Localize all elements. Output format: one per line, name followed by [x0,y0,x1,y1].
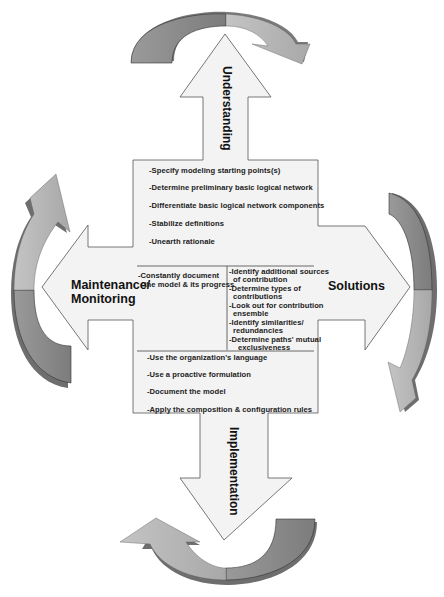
arrow-label-maintenance: Maintenance/ Monitoring [71,278,150,306]
understanding-item-1: -Specify modeling starting points(s) [149,166,280,175]
solutions-item-2: of contribution [233,275,287,284]
maintenance-item-1: -Constantly document [138,271,219,280]
understanding-item-5: -Unearth rationale [149,237,215,246]
arrow-label-maintenance-line2: Monitoring [71,292,150,306]
arrow-label-maintenance-line1: Maintenance/ [71,278,150,292]
maintenance-item-2: the model & its progress [144,280,234,289]
arrow-label-implementation: Implementation [227,427,241,516]
implementation-item-1: -Use the organization's language [147,353,267,362]
implementation-item-4: -Apply the composition & configuration r… [147,405,312,414]
solutions-item-10: exclusiveness [238,343,290,352]
solutions-item-4: contributions [233,292,282,301]
solutions-item-6: ensemble [233,309,268,318]
implementation-item-3: -Document the model [147,387,226,396]
understanding-item-4: -Stabilize definitions [149,219,224,228]
understanding-item-2: -Determine preliminary basic logical net… [149,183,313,192]
understanding-item-3: -Differentiate basic logical network com… [149,201,324,210]
implementation-item-2: -Use a proactive formulation [147,370,251,379]
solutions-item-8: redundancies [233,326,283,335]
arrow-label-solutions: Solutions [328,279,385,293]
arrow-label-understanding: Understanding [220,66,234,151]
